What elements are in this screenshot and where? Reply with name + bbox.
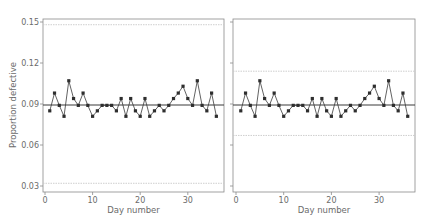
data-point-marker xyxy=(167,104,170,107)
data-point-marker xyxy=(339,115,342,118)
data-point-marker xyxy=(406,115,409,118)
data-point-marker xyxy=(72,97,75,100)
x-tick-label: 30 xyxy=(374,196,384,205)
data-point-marker xyxy=(153,109,156,112)
control-chart-figure: 0.030.060.090.120.150102030Day numberPro… xyxy=(0,0,429,224)
data-point-marker xyxy=(177,91,180,94)
data-point-marker xyxy=(373,85,376,88)
x-tick-label: 0 xyxy=(42,196,47,205)
data-point-marker xyxy=(258,79,261,82)
chart-panel-left: 0.030.060.090.120.150102030Day numberPro… xyxy=(8,18,224,215)
data-point-marker xyxy=(148,115,151,118)
data-point-marker xyxy=(244,91,247,94)
data-point-marker xyxy=(210,91,213,94)
data-point-marker xyxy=(196,79,199,82)
data-point-marker xyxy=(105,104,108,107)
data-point-marker xyxy=(181,85,184,88)
y-tick-label: 0.06 xyxy=(21,141,39,150)
data-point-marker xyxy=(115,109,118,112)
data-point-marker xyxy=(325,109,328,112)
data-point-marker xyxy=(392,104,395,107)
data-point-marker xyxy=(387,79,390,82)
data-point-marker xyxy=(162,109,165,112)
data-point-marker xyxy=(301,104,304,107)
y-tick-label: 0.12 xyxy=(21,59,39,68)
data-point-marker xyxy=(158,104,161,107)
chart-panel-right: 0102030Day number xyxy=(230,19,415,215)
x-axis-label: Day number xyxy=(107,205,160,215)
data-point-marker xyxy=(86,104,89,107)
data-point-marker xyxy=(81,91,84,94)
data-point-marker xyxy=(363,97,366,100)
data-point-marker xyxy=(101,104,104,107)
data-point-marker xyxy=(239,109,242,112)
x-tick-label: 10 xyxy=(279,196,289,205)
x-tick-label: 0 xyxy=(233,196,238,205)
data-point-marker xyxy=(124,115,127,118)
x-tick-label: 30 xyxy=(183,196,193,205)
y-tick-label: 0.15 xyxy=(21,18,39,27)
data-point-marker xyxy=(62,115,65,118)
data-point-marker xyxy=(67,79,70,82)
data-point-marker xyxy=(315,115,318,118)
data-point-marker xyxy=(378,97,381,100)
data-point-marker xyxy=(401,91,404,94)
x-tick-label: 20 xyxy=(135,196,145,205)
x-tick-label: 10 xyxy=(88,196,98,205)
data-point-marker xyxy=(58,104,61,107)
data-point-marker xyxy=(335,97,338,100)
data-point-marker xyxy=(91,115,94,118)
data-point-marker xyxy=(277,104,280,107)
data-point-marker xyxy=(200,104,203,107)
data-point-marker xyxy=(282,115,285,118)
data-point-marker xyxy=(296,104,299,107)
data-point-marker xyxy=(249,104,252,107)
data-point-marker xyxy=(96,109,99,112)
data-point-marker xyxy=(48,109,51,112)
data-point-marker xyxy=(268,104,271,107)
data-point-marker xyxy=(205,109,208,112)
data-point-marker xyxy=(172,97,175,100)
data-point-marker xyxy=(263,97,266,100)
data-point-marker xyxy=(330,115,333,118)
x-axis-label: Day number xyxy=(298,205,351,215)
data-point-marker xyxy=(354,109,357,112)
y-tick-label: 0.09 xyxy=(21,100,39,109)
y-axis-label: Proportion defective xyxy=(8,62,18,148)
data-point-marker xyxy=(186,97,189,100)
data-point-marker xyxy=(292,104,295,107)
data-point-marker xyxy=(287,109,290,112)
data-point-marker xyxy=(53,91,56,94)
data-point-marker xyxy=(273,91,276,94)
data-point-marker xyxy=(349,104,352,107)
data-point-marker xyxy=(358,104,361,107)
y-tick-label: 0.03 xyxy=(21,182,39,191)
data-point-marker xyxy=(215,115,218,118)
data-point-marker xyxy=(120,97,123,100)
data-point-marker xyxy=(143,97,146,100)
data-point-marker xyxy=(110,104,113,107)
data-point-marker xyxy=(139,115,142,118)
data-point-marker xyxy=(134,109,137,112)
data-point-marker xyxy=(320,97,323,100)
data-point-marker xyxy=(306,109,309,112)
data-point-marker xyxy=(253,115,256,118)
data-point-marker xyxy=(311,97,314,100)
data-point-marker xyxy=(77,104,80,107)
data-point-marker xyxy=(397,109,400,112)
data-point-marker xyxy=(368,91,371,94)
data-point-marker xyxy=(382,104,385,107)
data-point-marker xyxy=(191,104,194,107)
data-point-marker xyxy=(129,97,132,100)
x-tick-label: 20 xyxy=(326,196,336,205)
data-point-marker xyxy=(344,109,347,112)
